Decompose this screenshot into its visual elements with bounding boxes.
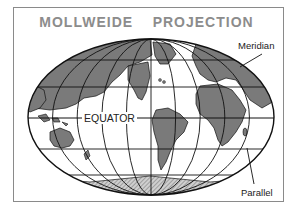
land-south-america <box>152 108 188 170</box>
mollweide-map <box>0 0 293 208</box>
land-islands <box>159 79 162 82</box>
land-australia <box>50 128 74 148</box>
parallel-label: Parallel <box>241 187 273 198</box>
land-central-america <box>128 62 150 100</box>
land-africa <box>196 84 246 146</box>
equator-label: EQUATOR <box>82 112 137 124</box>
meridian-pointer <box>240 54 262 67</box>
meridian-label: Meridian <box>238 40 274 51</box>
parallel-pointer <box>247 148 254 184</box>
land-greenland <box>153 42 176 64</box>
